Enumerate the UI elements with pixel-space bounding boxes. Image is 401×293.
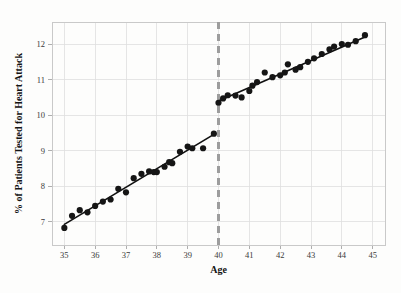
data-point [61, 225, 67, 231]
data-point [345, 42, 351, 48]
data-point [353, 38, 359, 44]
x-tick-label: 40 [214, 250, 223, 260]
y-axis-title: % of Patients Tested for Heart Attack [13, 53, 24, 214]
data-point [189, 145, 195, 151]
x-tick-label: 38 [153, 250, 162, 260]
x-tick-label: 36 [91, 250, 100, 260]
data-point [232, 93, 238, 99]
data-point [115, 186, 121, 192]
data-point [177, 149, 183, 155]
data-point [92, 203, 98, 209]
data-point [215, 100, 221, 106]
data-point [262, 69, 268, 75]
x-tick-label: 41 [245, 250, 254, 260]
data-point [200, 145, 206, 151]
x-tick-label: 42 [276, 250, 285, 260]
data-point [169, 160, 175, 166]
data-point [123, 189, 129, 195]
data-point [305, 59, 311, 65]
data-point [311, 55, 317, 61]
data-point [225, 92, 231, 98]
regression-discontinuity-chart: 3536373839404142434445 789101112 Age % o… [0, 0, 401, 293]
y-tick-label: 12 [37, 39, 46, 49]
data-point [69, 213, 75, 219]
data-point [331, 43, 337, 49]
y-tick-label: 10 [37, 110, 46, 120]
data-point [84, 209, 90, 215]
x-tick-label: 44 [338, 250, 347, 260]
x-tick-label: 45 [368, 250, 377, 260]
x-tick-label: 43 [307, 250, 316, 260]
data-point [285, 61, 291, 67]
y-tick-label: 8 [41, 181, 45, 191]
data-point [269, 74, 275, 80]
data-point [319, 51, 325, 57]
x-tick-label: 39 [183, 250, 192, 260]
data-point [339, 41, 345, 47]
data-point [254, 79, 260, 85]
x-tick-label: 35 [60, 250, 69, 260]
data-point [297, 64, 303, 70]
chart-container: 3536373839404142434445 789101112 Age % o… [0, 0, 401, 293]
data-point [138, 171, 144, 177]
data-point [131, 175, 137, 181]
x-axis-title: Age [210, 264, 227, 275]
data-point [161, 164, 167, 170]
data-point [282, 69, 288, 75]
data-point [362, 32, 368, 38]
data-point [100, 199, 106, 205]
data-point [211, 131, 217, 137]
data-point [77, 207, 83, 213]
y-tick-label: 9 [41, 146, 45, 156]
data-point [107, 196, 113, 202]
data-point [246, 88, 252, 94]
data-point [239, 94, 245, 100]
data-point [154, 169, 160, 175]
y-tick-label: 7 [41, 217, 45, 227]
x-tick-label: 37 [122, 250, 131, 260]
y-tick-label: 11 [37, 75, 45, 85]
